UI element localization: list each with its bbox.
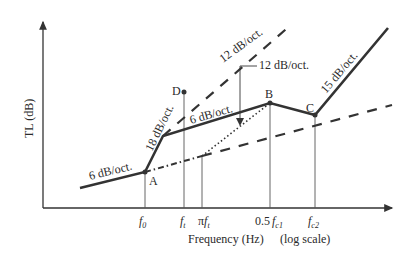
y-axis-label: TL (dB): [22, 99, 36, 138]
x-axis-label: Frequency (Hz): [188, 232, 264, 246]
point-d: [182, 90, 187, 95]
label-d: D: [172, 84, 181, 98]
slope-label-mid: 6 dB/oct.: [188, 101, 234, 127]
slope-label-high: 15 dB/oct.: [318, 49, 361, 96]
tick-pift: πft: [198, 214, 210, 230]
point-a: [143, 170, 148, 175]
leader-arrowhead: [236, 118, 244, 126]
label-c: C: [306, 101, 314, 115]
slope-label-dashed-upper: 12 dB/oct.: [217, 25, 266, 66]
label-a: A: [149, 174, 158, 188]
point-b: [268, 101, 273, 106]
x-axis-note: (log scale): [280, 232, 330, 246]
tl-frequency-diagram: A B C D 6 dB/oct. 18 dB/oct. 6 dB/oct. 1…: [0, 0, 416, 255]
slope-label-dotted: 12 dB/oct.: [259, 58, 309, 72]
tick-ft: ft: [180, 214, 186, 230]
mass-law-dashdot: [145, 156, 202, 172]
tick-fc1: 0.5fc1: [255, 214, 283, 230]
label-b: B: [265, 87, 273, 101]
tick-fc2: fc2: [308, 214, 319, 230]
dotted-slope-leader: [240, 66, 257, 122]
tick-f0: f0: [139, 214, 146, 230]
upper-dashed-line: [163, 24, 292, 136]
